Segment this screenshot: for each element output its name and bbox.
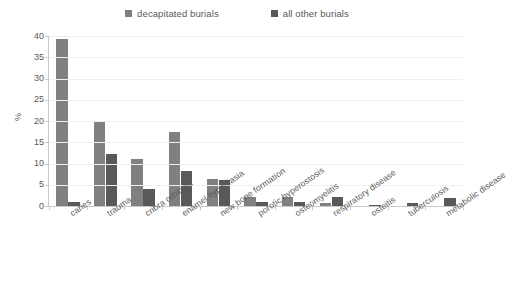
y-tick-label: 35 — [22, 53, 44, 62]
y-tick-mark — [45, 36, 49, 37]
gridline — [49, 121, 463, 122]
gridline — [49, 36, 463, 37]
y-tick-label: 5 — [22, 180, 44, 189]
gridline — [49, 142, 463, 143]
legend-item-decapitated-burials: decapitated burials — [125, 8, 219, 19]
bar — [56, 39, 68, 206]
y-tick-label: 15 — [22, 138, 44, 147]
gridline — [49, 57, 463, 58]
y-tick-label: 30 — [22, 74, 44, 83]
gridline — [49, 79, 463, 80]
y-tick-mark — [45, 57, 49, 58]
y-tick-label: 0 — [22, 202, 44, 211]
y-tick-label: 20 — [22, 117, 44, 126]
legend-label-all-other-burials: all other burials — [283, 8, 349, 19]
y-tick-label: 40 — [22, 32, 44, 41]
plot-area — [48, 36, 463, 206]
y-tick-label: 10 — [22, 159, 44, 168]
y-tick-mark — [45, 100, 49, 101]
y-tick-mark — [45, 185, 49, 186]
y-tick-mark — [45, 121, 49, 122]
gridline — [49, 100, 463, 101]
y-axis-tick-labels: 0510152025303540 — [22, 0, 44, 295]
y-tick-mark — [45, 79, 49, 80]
legend-item-all-other-burials: all other burials — [271, 8, 349, 19]
legend-swatch-all-other-burials — [271, 10, 278, 17]
chart-legend: decapitated burials all other burials — [0, 8, 474, 19]
gridline — [49, 164, 463, 165]
y-tick-mark — [45, 164, 49, 165]
legend-label-decapitated-burials: decapitated burials — [137, 8, 219, 19]
bar — [131, 159, 143, 206]
legend-swatch-decapitated-burials — [125, 10, 132, 17]
y-tick-label: 25 — [22, 95, 44, 104]
x-axis-tick-labels: cariestraumacribra orbitaliaenamel hypop… — [48, 206, 462, 295]
bar — [106, 154, 118, 206]
y-tick-mark — [45, 142, 49, 143]
